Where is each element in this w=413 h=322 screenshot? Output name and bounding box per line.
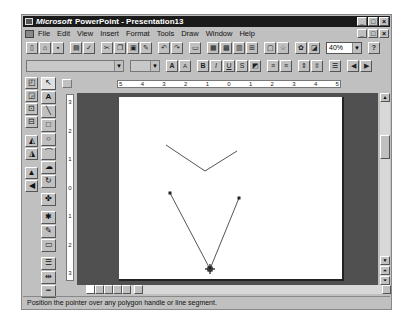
insert-graph-icon[interactable]: ▥	[233, 42, 245, 54]
report-it-icon[interactable]: ✿	[295, 42, 307, 54]
italic-icon[interactable]: I	[210, 60, 222, 72]
zoom-select[interactable]: 40% ▼	[326, 42, 362, 54]
freeform-tool-icon[interactable]: ☁	[41, 161, 56, 174]
font-size-dropdown-arrow-icon[interactable]: ▼	[150, 61, 159, 71]
increase-paragraph-spacing-icon[interactable]: ⇕	[298, 60, 310, 72]
save-icon[interactable]: ▪	[52, 42, 64, 54]
ungroup-icon[interactable]: ⊟	[25, 116, 38, 128]
promote-icon[interactable]: ◀	[347, 60, 359, 72]
polygon-handle[interactable]	[169, 192, 172, 195]
slide[interactable]	[119, 97, 344, 281]
slide-view-icon[interactable]	[86, 285, 95, 294]
slide-drawing[interactable]	[119, 97, 344, 281]
polygon-handle[interactable]	[238, 197, 241, 200]
font-size-select[interactable]: ▼	[130, 60, 160, 72]
menu-draw[interactable]: Draw	[181, 29, 199, 38]
slide-sorter-view-icon[interactable]	[104, 285, 113, 294]
text-color-icon[interactable]: ◩	[249, 60, 261, 72]
align-icon[interactable]: ▲	[25, 167, 38, 179]
doc-restore-button[interactable]: □	[368, 29, 378, 38]
polyline-shape[interactable]	[166, 145, 237, 171]
selected-polyline-shape[interactable]	[170, 193, 239, 269]
doc-minimize-button[interactable]: _	[357, 29, 367, 38]
menu-file[interactable]: File	[38, 29, 50, 38]
center-icon[interactable]: ≡	[280, 60, 292, 72]
fill-color-icon[interactable]: ✱	[41, 211, 56, 224]
bullets-icon[interactable]: ☰	[329, 60, 341, 72]
zoom-dropdown-arrow-icon[interactable]: ▼	[352, 43, 361, 53]
next-slide-icon[interactable]: ⏷	[380, 276, 390, 285]
print-icon[interactable]: ▤	[70, 42, 82, 54]
help-icon[interactable]: ?	[368, 42, 380, 54]
demote-icon[interactable]: ▶	[360, 60, 372, 72]
align-left-icon[interactable]: ≡	[267, 60, 279, 72]
format-painter-icon[interactable]: ✎	[140, 42, 152, 54]
line-style-icon[interactable]: ☰	[41, 257, 56, 270]
black-and-white-view-icon[interactable]: ◪	[308, 42, 320, 54]
system-menu-icon[interactable]	[25, 18, 33, 25]
open-icon[interactable]: ⌂	[39, 42, 51, 54]
decrease-paragraph-spacing-icon[interactable]: ⇳	[311, 60, 323, 72]
selection-tool-icon[interactable]: ↖	[41, 77, 56, 90]
menu-tools[interactable]: Tools	[157, 29, 175, 38]
rotate-icon[interactable]: ◭	[25, 135, 38, 147]
shadow-text-icon[interactable]: S	[236, 60, 248, 72]
slide-show-icon[interactable]	[122, 285, 131, 294]
bring-to-front-icon[interactable]: ◰	[25, 77, 38, 89]
arrowheads-icon[interactable]: ⇹	[41, 271, 56, 284]
scroll-thumb[interactable]	[380, 135, 390, 159]
autoshapes-icon[interactable]: ✤	[41, 193, 56, 206]
scroll-up-icon[interactable]: ▲	[380, 93, 390, 102]
shadow-on-off-icon[interactable]: ◀	[25, 180, 38, 192]
underline-icon[interactable]: U	[223, 60, 235, 72]
horizontal-ruler[interactable]: 5 4 3 2 1 0 1 2 3 4 5	[117, 80, 341, 88]
font-dropdown-arrow-icon[interactable]: ▼	[114, 61, 123, 71]
close-button[interactable]: ×	[379, 17, 389, 26]
menu-view[interactable]: View	[77, 29, 93, 38]
paste-icon[interactable]: ▣	[127, 42, 139, 54]
redo-icon[interactable]: ↷	[171, 42, 183, 54]
copy-icon[interactable]: ❐	[114, 42, 126, 54]
bold-icon[interactable]: B	[197, 60, 209, 72]
minimize-button[interactable]: _	[357, 17, 367, 26]
menu-window[interactable]: Window	[206, 29, 233, 38]
insert-excel-worksheet-icon[interactable]: ▩	[220, 42, 232, 54]
insert-clip-art-icon[interactable]: ⊞	[246, 42, 258, 54]
group-icon[interactable]: ⊡	[25, 103, 38, 115]
line-tool-icon[interactable]: ╲	[41, 105, 56, 118]
menu-insert[interactable]: Insert	[100, 29, 119, 38]
decrease-font-size-icon[interactable]: A	[179, 60, 191, 72]
document-icon[interactable]	[25, 30, 34, 38]
shadow-color-icon[interactable]: ▭	[41, 239, 56, 252]
line-color-icon[interactable]: ✎	[41, 225, 56, 238]
outline-view-icon[interactable]	[95, 285, 104, 294]
maximize-button[interactable]: □	[368, 17, 378, 26]
increase-font-size-icon[interactable]: A	[166, 60, 178, 72]
scroll-right-icon[interactable]	[382, 285, 391, 294]
notes-page-view-icon[interactable]	[113, 285, 122, 294]
send-to-back-icon[interactable]: ◲	[25, 90, 38, 102]
apply-design-icon[interactable]: ▢	[264, 42, 276, 54]
menu-format[interactable]: Format	[126, 29, 150, 38]
animation-effects-icon[interactable]: ☆	[277, 42, 289, 54]
menu-help[interactable]: Help	[239, 29, 254, 38]
vertical-scrollbar[interactable]: ▲ ▼ ⏶ ⏷	[380, 93, 390, 285]
flip-icon[interactable]: ◮	[25, 148, 38, 160]
free-rotate-tool-icon[interactable]: ↻	[41, 175, 56, 188]
vertical-ruler[interactable]: 3 2 1 0 1 2 3	[66, 94, 74, 281]
new-icon[interactable]: ▯	[26, 42, 38, 54]
menu-edit[interactable]: Edit	[57, 29, 70, 38]
arc-tool-icon[interactable]: ⌒	[41, 147, 56, 160]
ellipse-tool-icon[interactable]: ○	[41, 133, 56, 146]
scroll-down-icon[interactable]: ▼	[380, 256, 390, 265]
insert-new-slide-icon[interactable]: ▭	[189, 42, 201, 54]
font-name-select[interactable]: ▼	[26, 60, 124, 72]
cut-icon[interactable]: ✂	[101, 42, 113, 54]
rectangle-tool-icon[interactable]: □	[41, 119, 56, 132]
doc-close-button[interactable]: ×	[379, 29, 389, 38]
insert-word-table-icon[interactable]: ▦	[207, 42, 219, 54]
text-tool-icon[interactable]: A	[41, 91, 56, 104]
undo-icon[interactable]: ↶	[158, 42, 170, 54]
previous-slide-icon[interactable]: ⏶	[380, 266, 390, 275]
scroll-left-icon[interactable]	[134, 285, 143, 294]
